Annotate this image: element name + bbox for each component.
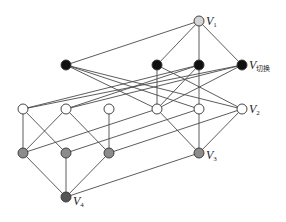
label-v3: V3 xyxy=(206,148,217,163)
label-vswitch: V切换 xyxy=(249,58,270,73)
label-v2: V2 xyxy=(249,102,260,117)
node-w1 xyxy=(18,104,28,114)
node-v1 xyxy=(194,16,204,26)
node-v4 xyxy=(61,192,71,202)
edge-V2-V3 xyxy=(199,109,242,153)
node-w2 xyxy=(61,104,71,114)
edge-V2-G3 xyxy=(109,109,242,153)
node-b1 xyxy=(61,60,71,70)
label-v4: V4 xyxy=(73,194,84,209)
edge-W5-G2 xyxy=(66,109,199,153)
edge-V3-V4 xyxy=(66,153,199,197)
node-v3 xyxy=(194,148,204,158)
edge-W4-G1 xyxy=(23,109,157,153)
edge-G3-V4 xyxy=(66,153,109,197)
node-w4 xyxy=(152,104,162,114)
edge-W2-G3 xyxy=(66,109,109,153)
node-v2 xyxy=(237,104,247,114)
edge-Vswitch-W1 xyxy=(23,65,242,109)
node-g2 xyxy=(61,148,71,158)
edge-B3-W1 xyxy=(23,65,199,109)
nodes-layer xyxy=(18,16,247,202)
node-g3 xyxy=(104,148,114,158)
node-g1 xyxy=(18,148,28,158)
edge-V1-B1 xyxy=(66,21,199,65)
node-b2 xyxy=(152,60,162,70)
node-b3 xyxy=(194,60,204,70)
edge-G1-V4 xyxy=(23,153,66,197)
edges-layer xyxy=(23,21,242,197)
label-v1: V1 xyxy=(206,14,217,29)
node-vswitch xyxy=(237,60,247,70)
node-w3 xyxy=(104,104,114,114)
node-w5 xyxy=(194,104,204,114)
lattice-diagram: V1V切换V2V3V4 xyxy=(0,0,286,222)
